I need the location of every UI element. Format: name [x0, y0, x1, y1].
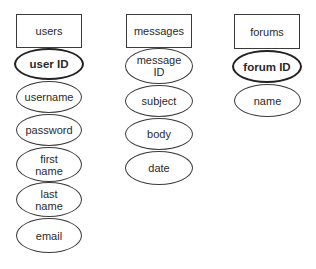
attribute-body: body	[125, 118, 193, 150]
attribute-message-id: message ID	[125, 48, 193, 84]
attribute-forum-name: name	[234, 84, 301, 117]
entity-forums: forums	[234, 14, 300, 49]
entity-label: forums	[250, 26, 284, 38]
attribute-forum-id: forum ID	[232, 50, 302, 83]
entity-label: messages	[134, 25, 184, 37]
entity-messages: messages	[126, 14, 192, 48]
entity-label: users	[36, 25, 63, 37]
attribute-username: username	[16, 81, 82, 113]
attribute-user-id: user ID	[14, 48, 84, 80]
attribute-first-name: first name	[16, 147, 82, 182]
attribute-last-name: last name	[16, 182, 82, 217]
attribute-date: date	[125, 151, 193, 185]
attribute-password: password	[16, 114, 82, 146]
entity-users: users	[16, 14, 82, 48]
attribute-email: email	[16, 218, 82, 253]
attribute-subject: subject	[125, 85, 193, 117]
